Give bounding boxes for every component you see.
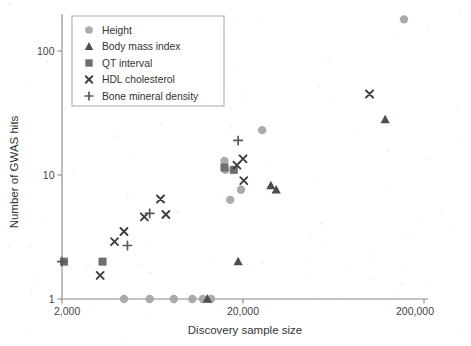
speck [79,9,81,11]
speck [248,264,249,265]
speck [133,279,134,280]
data-point-cross-x [111,238,118,245]
speck [231,19,232,20]
speck [355,243,356,244]
data-point-circle [145,295,153,303]
data-point-plus [145,209,153,217]
speck [428,285,429,286]
speck [380,188,381,189]
speck [202,255,203,256]
data-point-cross-x [97,272,104,279]
legend-label: Bone mineral density [102,91,199,102]
speck [328,200,329,201]
data-point-circle [188,295,196,303]
speck [360,285,361,286]
speck [317,296,318,297]
speck [57,48,59,50]
data-point-cross-x [120,228,127,235]
speck [306,278,307,279]
speck [49,79,50,80]
data-point-circle [120,295,128,303]
speck [419,318,420,319]
speck [402,284,404,286]
speck [403,144,404,145]
data-point-triangle [381,115,390,124]
speck [109,222,110,223]
speck [229,129,231,131]
speck [133,152,135,154]
y-axis-title: Number of GWAS hits [8,115,20,228]
speck [365,272,366,273]
speck [261,262,263,264]
speck [440,212,442,214]
speck [359,154,360,155]
speck [252,81,253,82]
speck [38,279,40,281]
speck [387,150,389,152]
speck [463,202,464,203]
speck [200,314,201,315]
speck [186,293,188,295]
speck [445,103,447,105]
speck [138,265,140,267]
speck [246,245,247,246]
x-tick-label: 200,000 [396,305,434,317]
series-body-mass-index [203,115,390,303]
data-point-circle [237,186,245,194]
speck [456,106,458,108]
speck [454,200,456,202]
speck [240,258,242,260]
speck [223,307,225,309]
x-tick-label: 2,000 [54,305,80,317]
speck [403,231,405,233]
data-point-circle [258,126,266,134]
speck [350,265,351,266]
speck [43,216,44,217]
speck [29,245,31,247]
speck [414,125,415,126]
speck [126,280,127,281]
data-point-circle [400,15,408,23]
speck [374,129,375,130]
speck [423,220,425,222]
speck [409,239,411,241]
speck [285,321,286,322]
speck [318,85,320,87]
legend-label: Height [102,25,132,36]
y-tick-label: 10 [43,169,55,181]
data-point-cross-x [157,196,164,203]
speck [359,129,360,130]
speck [229,96,230,97]
data-point-circle [226,196,234,204]
speck [334,63,335,64]
speck [399,9,400,10]
speck [29,173,30,174]
series-bone-mineral-density [58,136,243,266]
gwas-scatter-figure: 1101002,00020,000200,000Discovery sample… [0,0,471,346]
speck [24,332,25,333]
speck [29,82,31,84]
speck [320,223,322,225]
speck [315,178,316,179]
speck [239,19,240,20]
speck [85,270,87,272]
speck [434,301,435,302]
plot-canvas: 1101002,00020,000200,000Discovery sample… [0,0,471,346]
data-point-plus [234,136,242,144]
series-hdl-cholesterol [97,91,373,279]
speck [427,28,429,30]
speck [399,282,401,284]
speck [428,297,430,299]
speck [429,158,431,160]
legend-label: HDL cholesterol [102,74,175,85]
speck [340,285,341,286]
speck [356,91,357,92]
speck [29,227,30,228]
speck [8,246,10,248]
speck [160,124,162,126]
speck [449,224,450,225]
speck [309,232,311,234]
speck [220,197,222,199]
speck [373,277,375,279]
speck [386,184,388,186]
